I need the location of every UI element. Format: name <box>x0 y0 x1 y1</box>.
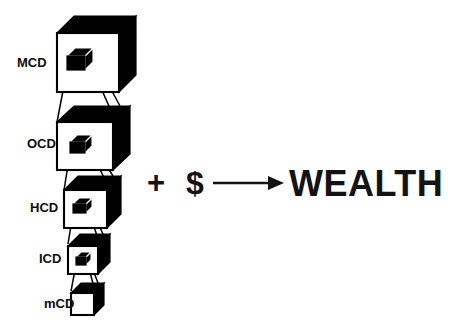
cube-label-hcd: HCD <box>30 200 58 215</box>
cube-level-icd: ICD <box>39 234 110 274</box>
cube-level-hcd: HCD <box>30 176 121 228</box>
arrow-right-icon <box>213 176 284 190</box>
cube-level-mcd: MCD <box>17 16 136 92</box>
ocd-inner-cube-front-face <box>70 142 85 153</box>
plus-sign: + <box>147 165 165 200</box>
hcd-inner-cube-front-face <box>73 204 86 213</box>
wealth-equation-group: + $ WEALTH <box>147 163 443 204</box>
diagram-root: MCD OCD HCD <box>0 0 452 335</box>
cube-level-ocd: OCD <box>27 106 130 170</box>
cube-label-icd: ICD <box>39 251 61 266</box>
dollar-sign: $ <box>186 165 204 201</box>
cube-label-mcd: MCD <box>17 55 47 70</box>
mcd-inner-cube-front-face <box>67 56 85 70</box>
icd-inner-cube-front-face <box>76 257 86 265</box>
cube-label-ocd: OCD <box>27 136 56 151</box>
arrow-head <box>268 176 284 190</box>
cube-level-mcd-small: mCD <box>44 283 104 315</box>
wealth-label: WEALTH <box>289 163 443 204</box>
mcd-small-cube-front-face <box>71 293 94 315</box>
cube-hierarchy-figure: MCD OCD HCD <box>0 0 452 335</box>
cube-label-mcd-small: mCD <box>44 296 74 311</box>
